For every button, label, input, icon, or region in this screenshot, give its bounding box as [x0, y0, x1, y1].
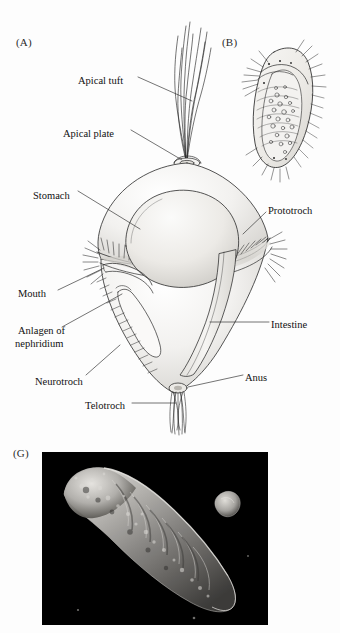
- label-prototroch: Prototroch: [268, 205, 312, 218]
- label-mouth: Mouth: [18, 288, 46, 301]
- apical-plate-shape: [174, 156, 201, 168]
- stomach-shape: [126, 190, 239, 287]
- apical-tuft-cilia: [175, 22, 211, 161]
- telotroch-cilia: [170, 392, 186, 435]
- label-anus: Anus: [245, 372, 267, 385]
- micrograph-content: [42, 452, 268, 625]
- panel-letter-b: (B): [222, 36, 237, 48]
- intestine-shape: [180, 250, 236, 376]
- anlagen-nephridium-shape: [116, 286, 161, 358]
- label-apical-tuft: Apical tuft: [78, 75, 123, 88]
- label-stomach: Stomach: [33, 190, 70, 203]
- figure-plate: (A) (B) (G): [0, 0, 340, 633]
- label-anlagen-of-nephridium-line2: nephridium: [15, 338, 63, 351]
- panel-letter-g: (G): [13, 447, 29, 459]
- label-apical-plate: Apical plate: [63, 128, 114, 141]
- panel-b-vesicles: [267, 86, 294, 154]
- neurotroch-cilia: [97, 278, 157, 373]
- larva-body-outline: [98, 163, 268, 393]
- label-neurotroch: Neurotroch: [35, 376, 83, 389]
- leader-lines: [58, 77, 269, 403]
- label-intestine: Intestine: [271, 319, 307, 332]
- prototroch-band: [97, 238, 272, 279]
- label-telotroch: Telotroch: [85, 400, 125, 413]
- mouth-shape: [103, 263, 153, 293]
- anus-shape: [169, 383, 187, 393]
- panel-letter-a: (A): [16, 36, 32, 48]
- panel-g-micrograph: [42, 452, 268, 625]
- panel-b-larva: [242, 40, 326, 182]
- label-anlagen-of-nephridium-line1: Anlagen of: [18, 325, 65, 338]
- prototroch-cilia: [83, 232, 287, 284]
